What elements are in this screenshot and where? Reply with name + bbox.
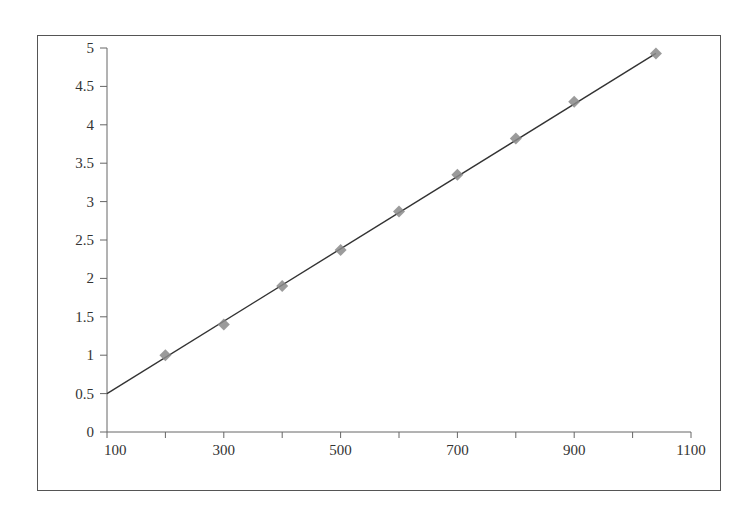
x-tick-label: 100 [104, 442, 127, 458]
y-tick-label: 4 [87, 117, 95, 133]
x-tick-label: 900 [563, 442, 586, 458]
y-tick-label: 0 [87, 424, 95, 440]
y-tick-label: 2.5 [75, 232, 94, 248]
y-tick-label: 4.5 [75, 78, 94, 94]
x-tick-label: 700 [446, 442, 469, 458]
y-tick-label: 1 [87, 347, 95, 363]
x-tick-label: 300 [213, 442, 236, 458]
y-tick-label: 5 [87, 40, 95, 56]
x-tick-label: 500 [329, 442, 352, 458]
scatter-plot: 00.511.522.533.544.551003005007009001100 [0, 0, 754, 516]
y-tick-label: 1.5 [75, 309, 94, 325]
y-tick-label: 3.5 [75, 155, 94, 171]
data-point-diamond [218, 318, 230, 330]
x-tick-label: 1100 [676, 442, 705, 458]
y-tick-label: 0.5 [75, 386, 94, 402]
y-tick-label: 2 [87, 270, 95, 286]
data-point-diamond [650, 47, 662, 59]
y-tick-label: 3 [87, 194, 95, 210]
